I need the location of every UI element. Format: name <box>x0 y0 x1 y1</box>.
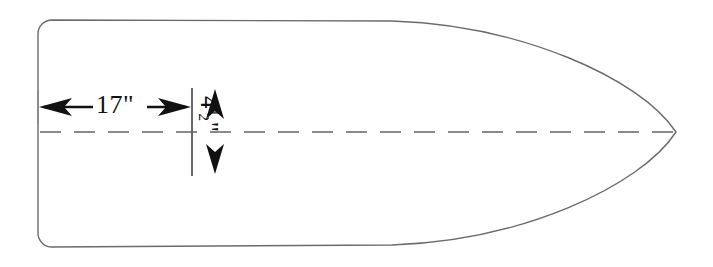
half-beam-whole-number: 4 <box>196 96 223 109</box>
half-beam-fraction: 12 <box>203 109 219 122</box>
hull-outline-path <box>38 20 676 247</box>
length-dimension-label: 17" <box>96 92 134 118</box>
half-beam-unit: " <box>196 122 223 132</box>
drawing-canvas: 17" 412" <box>0 0 713 267</box>
technical-drawing <box>0 0 713 267</box>
fraction-denominator: 2 <box>196 113 212 121</box>
half-beam-dimension-label: 412" <box>197 96 222 132</box>
